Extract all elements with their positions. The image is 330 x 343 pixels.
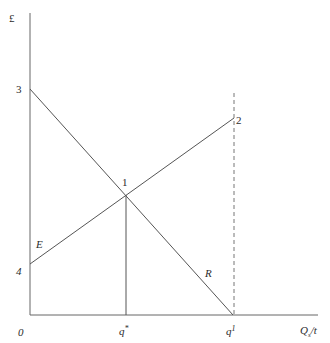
curve-R: [30, 89, 233, 315]
point-1-label: 1: [122, 176, 128, 188]
origin-label: 0: [18, 326, 24, 338]
y-tick-4: 4: [16, 265, 22, 277]
x-tick-q-star: q*: [119, 324, 129, 337]
x-tick-q-one: q1: [226, 324, 236, 337]
point-2-label: 2: [236, 114, 242, 126]
curve-E: [30, 118, 234, 264]
y-tick-3: 3: [16, 83, 22, 95]
curve-R-label: R: [204, 267, 212, 279]
diagram-canvas: £ 3 4 1 2 E R 0 q* q1 Qs/t: [0, 0, 330, 343]
curve-E-label: E: [35, 238, 43, 250]
x-axis-label: Qs/t: [300, 324, 318, 339]
y-axis-label: £: [9, 12, 15, 24]
